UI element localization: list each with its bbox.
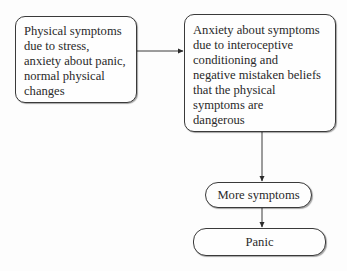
node-text-line: due to stress, xyxy=(24,39,130,54)
node-physical-symptoms: Physical symptoms due to stress, anxiety… xyxy=(15,16,137,103)
node-text-line: conditioning and xyxy=(193,53,329,68)
node-text-line: negative mistaken beliefs xyxy=(193,68,329,83)
node-anxiety-about-symptoms: Anxiety about symptoms due to interocept… xyxy=(184,14,336,132)
node-text-line: anxiety about panic, xyxy=(24,54,130,69)
node-label: Panic xyxy=(246,235,274,250)
node-text-line: dangerous xyxy=(193,113,329,128)
node-text-line: due to interoceptive xyxy=(193,38,329,53)
node-text-line: Anxiety about symptoms xyxy=(193,23,329,38)
node-text-line: that the physical xyxy=(193,83,329,98)
node-more-symptoms: More symptoms xyxy=(205,182,312,208)
node-text-line: changes xyxy=(24,84,130,99)
node-text-line: symptoms are xyxy=(193,98,329,113)
node-panic: Panic xyxy=(193,228,326,256)
node-text-line: Physical symptoms xyxy=(24,24,130,39)
node-text-line: normal physical xyxy=(24,69,130,84)
node-label: More symptoms xyxy=(217,188,299,203)
